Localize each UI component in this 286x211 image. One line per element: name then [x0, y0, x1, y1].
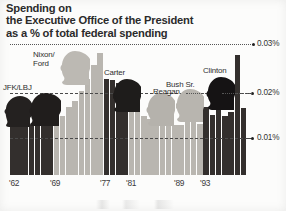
scan-artifact	[96, 200, 192, 209]
bar-1998	[235, 55, 241, 175]
bar-1973	[79, 91, 85, 175]
axis-marker-0.01	[251, 137, 254, 140]
silhouette-lbj	[28, 92, 61, 128]
x-label-69: '69	[50, 178, 60, 188]
silhouette-carter	[113, 78, 141, 112]
president-label-ford: Ford	[33, 60, 54, 69]
bar-1989	[178, 125, 184, 175]
bar-1965	[29, 125, 35, 175]
bar-1984	[147, 119, 153, 175]
bar-1962	[10, 123, 16, 175]
bar-1997	[228, 112, 234, 175]
silhouette-reagan	[146, 92, 175, 127]
silhouette-nixon-ford	[60, 50, 90, 86]
axis-marker-0.03	[252, 43, 255, 46]
chart-figure: Spending on the Executive Office of the …	[0, 0, 286, 211]
bar-1963	[16, 120, 22, 175]
bar-1967	[41, 122, 47, 175]
title-line-2: the Executive Office of the President	[6, 14, 256, 26]
president-label-nixon-ford: Nixon/ Ford	[33, 51, 54, 68]
president-label-bush: Bush Sr.	[166, 81, 195, 90]
axis-label-0.02: 0.02%	[257, 88, 279, 97]
bar-1996	[222, 116, 228, 176]
bar-1992	[197, 124, 203, 175]
president-label-jfk-lbj: JFK/LBJ	[3, 84, 32, 93]
bar-1971	[66, 107, 72, 175]
bar-1969	[54, 120, 60, 175]
x-label-89: '89	[174, 178, 184, 188]
bar-1990	[185, 122, 191, 175]
bar-1968	[47, 125, 53, 176]
x-label-62: '62	[9, 178, 19, 188]
x-label-93: '93	[200, 178, 210, 188]
x-axis: '62 '69 '77 '81 '89 '93	[0, 178, 286, 192]
axis-label-0.03: 0.03%	[257, 39, 279, 48]
bar-1993	[203, 107, 209, 175]
gridline-0.01	[10, 138, 253, 139]
title-line-1: Spending on	[6, 2, 256, 14]
bar-1986	[160, 124, 166, 175]
page-title: Spending on the Executive Office of the …	[6, 2, 256, 39]
president-label-carter: Carter	[104, 69, 125, 78]
x-label-77: '77	[100, 178, 110, 188]
gridline-0.03	[10, 44, 253, 45]
axis-label-0.01: 0.01%	[257, 133, 279, 142]
bar-1991	[191, 116, 197, 175]
bar-1994	[210, 115, 216, 175]
title-line-3: as a % of total federal spending	[6, 27, 256, 39]
bar-1985	[153, 121, 159, 175]
bar-1999	[241, 108, 247, 175]
leader-line-clinton	[222, 93, 252, 94]
president-label-clinton: Clinton	[203, 67, 227, 76]
bar-1982	[135, 112, 141, 175]
bar-1988	[172, 125, 178, 175]
bar-1975	[91, 65, 97, 175]
bar-1964	[22, 124, 28, 175]
leader-line-bush	[186, 93, 206, 94]
bar-1976	[97, 53, 103, 175]
bar-1987	[166, 125, 172, 176]
x-label-81: '81	[126, 178, 136, 188]
